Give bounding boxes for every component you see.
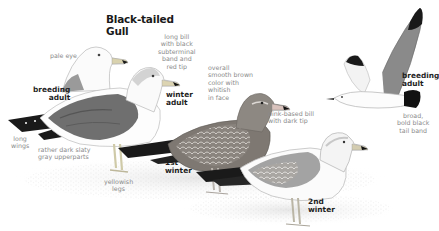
- title-line-1: Black-tailed: [106, 13, 174, 25]
- note-pink-based-bill: pink-based bill with dark tip: [268, 110, 314, 125]
- note-pale-eye: pale eye: [50, 52, 77, 59]
- note-tail-band: broad, bold black tail band: [397, 112, 429, 134]
- label-first-winter: 1st winter: [165, 159, 192, 176]
- note-long-wings: long wings: [11, 135, 29, 150]
- note-smooth-brown: overall smooth brown color with whitish …: [208, 64, 253, 101]
- note-slaty-upperparts: rather dark slaty gray upperparts: [38, 146, 91, 161]
- label-winter-adult: winter adult: [166, 91, 193, 108]
- note-yellowish-legs: yellowish legs: [104, 178, 133, 193]
- label-breeding-adult-flight: breeding adult: [402, 72, 439, 89]
- label-second-winter: 2nd winter: [308, 198, 335, 215]
- label-breeding-adult-standing: breeding adult: [33, 86, 70, 103]
- note-long-bill: long bill with black subterminal band an…: [158, 33, 196, 70]
- gull-breeding-adult-flight: [326, 8, 423, 108]
